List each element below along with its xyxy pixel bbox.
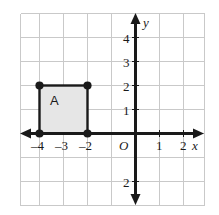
x-tick-label-neg4: –4	[31, 139, 44, 152]
vertex-point	[35, 81, 43, 89]
x-axis-left-arrow-icon	[20, 129, 31, 139]
y-axis-label: y	[143, 16, 149, 29]
shape-a-outline	[40, 86, 88, 134]
origin-label: O	[119, 139, 128, 152]
x-tick-label-neg3: –3	[55, 139, 68, 152]
y-axis-down-arrow-icon	[131, 194, 141, 205]
x-tick-label-1: 1	[156, 139, 163, 152]
y-tick-label-neg2: 2	[123, 176, 130, 189]
shape-a-square	[40, 86, 88, 134]
y-tick-label-3: 3	[123, 56, 130, 69]
shape-a-label: A	[50, 94, 59, 107]
x-tick-label-neg2: –2	[79, 139, 92, 152]
y-tick-label-2: 2	[123, 80, 130, 93]
y-tick-label-4: 4	[123, 32, 130, 45]
y-axis-up-arrow-icon	[131, 13, 141, 24]
coordinate-plane-figure: y x O –4 –3 –2 1 2 1 2 3 4 2 A	[0, 0, 219, 215]
x-tick-label-2: 2	[180, 139, 187, 152]
vertex-point	[83, 129, 91, 137]
vertex-point	[83, 81, 91, 89]
coordinate-plane-svg	[0, 0, 219, 215]
x-axis-right-arrow-icon	[193, 129, 204, 139]
vertex-point	[35, 129, 43, 137]
x-axis-label: x	[192, 139, 198, 152]
y-tick-label-1: 1	[123, 104, 130, 117]
